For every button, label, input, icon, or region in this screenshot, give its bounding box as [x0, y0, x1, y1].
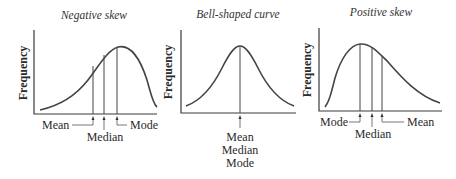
mode-label: Mode [226, 156, 254, 170]
median-label: Median [355, 127, 392, 141]
median-label: Median [222, 143, 259, 157]
mean-leader [72, 120, 93, 125]
mean-label: Mean [226, 130, 253, 144]
axes [181, 30, 296, 113]
panel-bell-shaped-curve: Bell-shaped curve Frequency Mean Median … [161, 8, 296, 170]
mode-leader [117, 120, 127, 125]
center-arrow-icon [239, 115, 242, 119]
y-axis-label: Frequency [300, 43, 314, 97]
panel-negative-skew: Negative skew Frequency Mean Median Mode [16, 9, 158, 144]
panel-positive-skew: Positive skew Frequency Mode Median Mean [300, 6, 442, 141]
panel-title: Bell-shaped curve [196, 8, 279, 21]
median-label: Median [87, 130, 124, 144]
mode-leader [349, 117, 360, 122]
y-axis-label: Frequency [16, 46, 30, 100]
panel-title: Positive skew [349, 6, 413, 18]
mode-arrow-icon [116, 116, 119, 120]
median-arrow-icon [103, 116, 106, 120]
mean-leader [382, 117, 404, 122]
mode-arrow-icon [359, 113, 362, 117]
mean-label: Mean [42, 118, 69, 132]
mean-label: Mean [407, 115, 434, 129]
mean-arrow-icon [381, 113, 384, 117]
distribution-curve [40, 47, 157, 110]
median-arrow-icon [371, 113, 374, 117]
panel-title: Negative skew [60, 9, 127, 22]
mean-arrow-icon [92, 116, 95, 120]
skewness-diagram: Negative skew Frequency Mean Median Mode… [0, 0, 456, 179]
mode-label: Mode [130, 118, 158, 132]
mode-label: Mode [320, 115, 348, 129]
axes [34, 30, 157, 114]
y-axis-label: Frequency [161, 45, 175, 99]
